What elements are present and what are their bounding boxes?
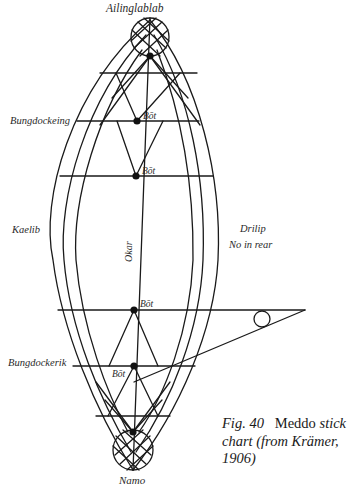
- label-namo: Namo: [119, 475, 145, 486]
- label-bot-3: Bōt: [140, 300, 153, 310]
- caption-title-italic: stick: [319, 415, 346, 431]
- label-bot-4: Bōt: [112, 370, 125, 380]
- label-bungdockerik: Bungdockerik: [8, 358, 66, 369]
- caption-line-3: 1906): [222, 450, 256, 466]
- caption-line-2: chart (from Krämer,: [222, 433, 339, 449]
- label-bot-1: Bōt: [143, 112, 156, 122]
- label-drilip: Drilip: [240, 224, 266, 235]
- label-ailinglablab: Ailinglablab: [106, 3, 164, 15]
- label-okar: Okar: [124, 241, 134, 262]
- label-kaelib: Kaelib: [12, 225, 40, 236]
- label-no-in-rear: No in rear: [229, 240, 272, 251]
- caption-fig-number: Fig. 40: [222, 415, 264, 431]
- hull-arcs-right: [133, 20, 218, 470]
- outrigger-pointer: [134, 310, 305, 382]
- okar-axis-line: [133, 18, 150, 470]
- caption-title-roman: Meddo: [275, 415, 316, 431]
- label-bungdockeing: Bungdockeing: [10, 116, 70, 127]
- label-bot-2: Bōt: [142, 167, 155, 177]
- figure-caption: Fig. 40 Meddo stick chart (from Krämer, …: [222, 415, 362, 468]
- stick-chart-figure: Ailinglablab Bungdockeing Kaelib Drilip …: [0, 0, 363, 491]
